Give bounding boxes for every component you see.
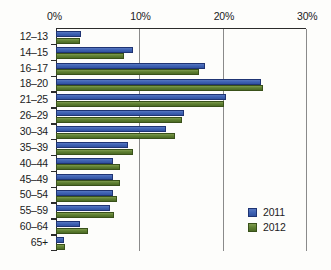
bar-chart: 0%10%20%30% 12–1314–1516–1718–2021–2526–… [0, 0, 331, 270]
bar-2011-65+ [56, 237, 64, 243]
x-axis-tick-30pct: 30% [297, 10, 317, 22]
y-axis-label-21-25: 21–25 [20, 93, 48, 105]
y-axis-label-55-59: 55–59 [20, 204, 48, 216]
chart-row: 14–15 [56, 45, 306, 61]
y-axis-tick [51, 250, 56, 251]
chart-row: 26–29 [56, 108, 306, 124]
chart-row: 21–25 [56, 92, 306, 108]
bar-2011-35-39 [56, 142, 128, 148]
bar-2011-60-64 [56, 221, 80, 227]
bar-2011-40-44 [56, 158, 113, 164]
bar-2011-14-15 [56, 47, 133, 53]
legend-swatch-2012 [248, 223, 257, 232]
gridline-30pct [306, 29, 307, 251]
x-axis-tick-10pct: 10% [130, 10, 150, 22]
chart-row: 12–13 [56, 29, 306, 45]
x-axis-tick-20pct: 20% [214, 10, 234, 22]
chart-legend: 20112012 [248, 206, 286, 236]
y-axis-label-26-29: 26–29 [20, 109, 48, 121]
y-axis-label-40-44: 40–44 [20, 157, 48, 169]
bar-2012-14-15 [56, 53, 124, 59]
chart-row: 16–17 [56, 61, 306, 77]
bar-2012-30-34 [56, 133, 175, 139]
bar-2011-26-29 [56, 110, 184, 116]
y-axis-label-60-64: 60–64 [20, 220, 48, 232]
chart-row: 30–34 [56, 124, 306, 140]
bar-2012-45-49 [56, 180, 120, 186]
y-axis-label-16-17: 16–17 [20, 62, 48, 74]
bar-2012-55-59 [56, 212, 114, 218]
legend-item-2012[interactable]: 2012 [248, 221, 286, 233]
bar-2012-16-17 [56, 69, 199, 75]
bar-2012-40-44 [56, 164, 120, 170]
bar-2012-60-64 [56, 228, 88, 234]
bar-2012-50-54 [56, 196, 117, 202]
chart-row: 40–44 [56, 156, 306, 172]
y-axis-label-50-54: 50–54 [20, 188, 48, 200]
bar-2012-35-39 [56, 149, 133, 155]
chart-row: 45–49 [56, 172, 306, 188]
bar-2012-12-13 [56, 38, 80, 44]
bar-2011-16-17 [56, 63, 205, 69]
bar-2012-65+ [56, 244, 65, 250]
y-axis-label-14-15: 14–15 [20, 46, 48, 58]
chart-row: 50–54 [56, 188, 306, 204]
bar-2011-12-13 [56, 31, 81, 37]
legend-swatch-2011 [248, 208, 257, 217]
y-axis-label-30-34: 30–34 [20, 125, 48, 137]
legend-item-2011[interactable]: 2011 [248, 206, 286, 218]
y-axis-label-18-20: 18–20 [20, 77, 48, 89]
bar-2011-21-25 [56, 94, 226, 100]
bar-2011-45-49 [56, 174, 113, 180]
bar-2011-30-34 [56, 126, 166, 132]
bar-2011-50-54 [56, 190, 113, 196]
y-axis-label-35-39: 35–39 [20, 141, 48, 153]
y-axis-label-45-49: 45–49 [20, 173, 48, 185]
bar-2011-55-59 [56, 205, 110, 211]
bar-2012-26-29 [56, 117, 182, 123]
bar-2011-18-20 [56, 79, 261, 85]
legend-label-2012: 2012 [263, 221, 286, 233]
bar-2012-18-20 [56, 85, 263, 91]
x-axis-tick-0pct: 0% [47, 10, 62, 22]
legend-label-2011: 2011 [263, 206, 285, 218]
bar-2012-21-25 [56, 101, 224, 107]
y-axis-label-12-13: 12–13 [20, 30, 48, 42]
y-axis-label-65+: 65+ [31, 236, 48, 248]
chart-row: 35–39 [56, 140, 306, 156]
chart-row: 65+ [56, 235, 306, 251]
chart-row: 18–20 [56, 77, 306, 93]
